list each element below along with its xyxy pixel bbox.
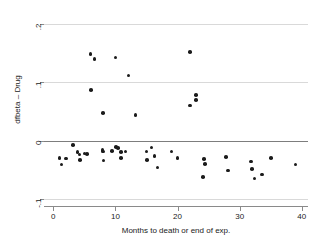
data-point [101,150,105,154]
data-point [150,146,154,150]
gridline [44,199,308,200]
x-axis-tick-label: 40 [287,212,317,221]
y-axis-tick-label: .1 [34,82,43,112]
plot-area [44,16,308,206]
x-axis-title: Months to death or end of exp. [44,226,308,235]
x-axis-tick-label: 0 [38,212,68,221]
x-axis-tick-label: 20 [163,212,193,221]
x-axis-line [44,206,308,207]
data-point [188,104,192,108]
data-point [249,160,253,164]
data-point [110,149,114,153]
gridline [44,24,308,25]
data-point [170,150,174,154]
y-axis-title: dfbeta – Drug [13,35,22,165]
x-axis-tick [115,207,116,211]
x-axis-tick-label: 30 [225,212,255,221]
data-point [78,158,82,162]
gridline [44,82,308,83]
data-point [124,150,128,154]
data-point [201,175,205,179]
y-axis-tick-label: 0 [34,140,43,170]
data-point [145,150,149,154]
data-point [58,156,62,160]
data-point [89,52,93,56]
data-point [78,153,82,157]
data-point [194,98,198,102]
data-point [145,158,149,162]
data-point [89,88,93,92]
data-point [127,74,131,78]
data-point [64,157,68,161]
data-point [116,146,120,150]
y-axis-tick-label: .2 [34,23,43,53]
x-axis-tick [240,207,241,211]
data-point [226,169,230,173]
data-point [176,156,180,160]
data-point [203,162,207,166]
data-point [102,159,106,163]
data-point [156,166,160,170]
x-axis-tick [53,207,54,211]
zero-reference-line [44,141,308,142]
data-point [134,113,138,117]
data-point [202,157,206,161]
data-point [294,163,298,167]
data-point [85,152,89,156]
data-point [101,111,105,115]
data-point [119,150,123,154]
data-point [114,56,118,60]
x-axis-tick [178,207,179,211]
data-point [194,93,198,97]
data-point [224,155,228,159]
data-point [93,57,97,61]
data-point [153,154,157,158]
data-point [260,173,264,177]
x-axis-tick-label: 10 [100,212,130,221]
scatter-plot-figure: .2.10-.1 010203040 dfbeta – Drug Months … [0,0,317,247]
x-axis-tick [302,207,303,211]
data-point [119,156,123,160]
data-point [71,143,75,147]
data-point [60,163,64,167]
data-point [250,167,254,171]
data-point [188,50,192,54]
data-point [253,177,257,181]
data-point [269,156,273,160]
